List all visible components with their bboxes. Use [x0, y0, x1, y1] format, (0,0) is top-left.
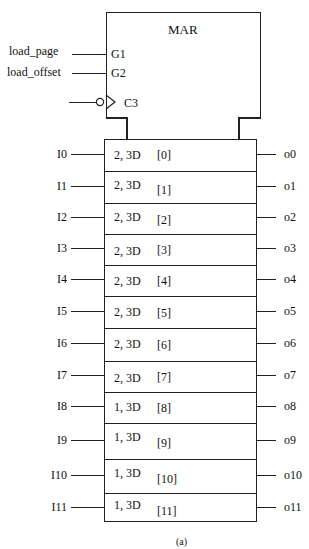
output-wire: [257, 217, 276, 218]
dependency-label: 2, 3D: [114, 337, 141, 352]
register-row: 1, 3D [9]: [105, 423, 256, 459]
notch-right-h: [239, 117, 261, 119]
output-label: o8: [284, 400, 296, 412]
input-wire: [71, 440, 104, 441]
input-label: I11: [51, 501, 67, 513]
input-wire: [71, 217, 104, 218]
output-wire: [257, 440, 276, 441]
notch-left-h: [106, 117, 127, 119]
input-wire: [71, 507, 104, 508]
output-wire: [257, 343, 276, 344]
input-label: I8: [57, 400, 67, 412]
bit-index: [0]: [157, 148, 171, 163]
register-row: 1, 3D [10]: [105, 459, 256, 493]
dependency-label: 2, 3D: [114, 274, 141, 289]
input-label: I7: [57, 369, 67, 381]
dependency-label: 1, 3D: [114, 498, 141, 513]
notch-right-v: [238, 117, 240, 140]
bit-index: [8]: [157, 401, 171, 416]
output-label: o11: [284, 501, 302, 513]
dependency-label: 1, 3D: [114, 430, 141, 445]
block-title: MAR: [168, 24, 198, 36]
output-wire: [257, 475, 276, 476]
notch-left-v: [126, 117, 128, 140]
input-wire: [71, 311, 104, 312]
dependency-label: 1, 3D: [114, 466, 141, 481]
register-row: 2, 3D [3]: [105, 234, 256, 265]
output-wire: [257, 311, 276, 312]
g2-pin-label: G2: [111, 67, 126, 79]
input-wire: [71, 343, 104, 344]
register-row: 2, 3D [7]: [105, 361, 256, 392]
input-label: I5: [57, 305, 67, 317]
dependency-label: 2, 3D: [114, 178, 141, 193]
register-row: 2, 3D [0]: [105, 140, 256, 171]
input-wire: [71, 375, 104, 376]
bit-index: [2]: [157, 213, 171, 228]
output-label: o5: [284, 305, 296, 317]
bit-index: [5]: [157, 306, 171, 321]
input-wire: [71, 186, 104, 187]
dependency-label: 1, 3D: [114, 400, 141, 415]
output-wire: [257, 375, 276, 376]
register-row: 2, 3D [4]: [105, 265, 256, 296]
bit-index: [3]: [157, 243, 171, 258]
register-row: 1, 3D [8]: [105, 392, 256, 423]
register-row: 2, 3D [6]: [105, 328, 256, 361]
input-label: I4: [57, 273, 67, 285]
g1-pin-label: G1: [111, 48, 126, 60]
bit-index: [9]: [157, 436, 171, 451]
bit-index: [1]: [157, 183, 171, 198]
output-label: o3: [284, 242, 296, 254]
dependency-label: 2, 3D: [114, 371, 141, 386]
inverted-clock-icon: [95, 94, 119, 111]
output-wire: [257, 154, 276, 155]
input-wire: [71, 154, 104, 155]
input-label: I10: [51, 469, 67, 481]
output-label: o6: [284, 337, 296, 349]
output-label: o9: [284, 434, 296, 446]
output-label: o1: [284, 180, 296, 192]
dependency-label: 2, 3D: [114, 148, 141, 163]
output-label: o0: [284, 148, 296, 160]
output-wire: [257, 406, 276, 407]
register-row: 2, 3D [5]: [105, 296, 256, 328]
input-label: I9: [57, 434, 67, 446]
bit-index: [6]: [157, 338, 171, 353]
input-label: I2: [57, 211, 67, 223]
register-row: 1, 3D [11]: [105, 493, 256, 522]
dependency-label: 2, 3D: [114, 244, 141, 259]
dependency-label: 2, 3D: [114, 210, 141, 225]
input-wire: [71, 279, 104, 280]
register-row: 2, 3D [2]: [105, 203, 256, 234]
output-label: o10: [284, 469, 302, 481]
input-label: I6: [57, 337, 67, 349]
figure-caption: (a): [176, 536, 187, 548]
load-offset-label: load_offset: [7, 66, 61, 78]
load-page-label: load_page: [9, 45, 58, 57]
output-wire: [257, 248, 276, 249]
output-wire: [257, 279, 276, 280]
bit-index: [10]: [157, 472, 177, 487]
bit-index: [4]: [157, 274, 171, 289]
output-label: o7: [284, 369, 296, 381]
clock-wire: [69, 102, 96, 103]
input-wire: [71, 248, 104, 249]
dependency-label: 2, 3D: [114, 305, 141, 320]
bit-index: [7]: [157, 370, 171, 385]
c3-pin-label: C3: [124, 97, 138, 109]
output-label: o4: [284, 273, 296, 285]
load-page-wire: [72, 54, 106, 55]
output-label: o2: [284, 211, 296, 223]
output-wire: [257, 507, 276, 508]
input-label: I0: [57, 148, 67, 160]
input-wire: [71, 475, 104, 476]
load-offset-wire: [72, 73, 106, 74]
input-label: I1: [57, 180, 67, 192]
bit-index: [11]: [157, 504, 177, 519]
input-label: I3: [57, 242, 67, 254]
output-wire: [257, 186, 276, 187]
input-wire: [71, 406, 104, 407]
register-block: 2, 3D [0] 2, 3D [1] 2, 3D [2] 2, 3D [3] …: [104, 139, 257, 522]
register-row: 2, 3D [1]: [105, 171, 256, 203]
